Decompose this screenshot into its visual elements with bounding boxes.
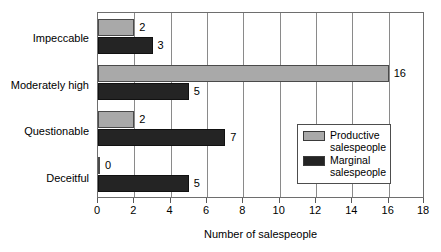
- x-axis-tick-labels: 0 2 4 6 8 10 12 14 16 18: [97, 204, 424, 220]
- bar-deceitful-marginal[interactable]: [98, 175, 189, 192]
- legend-label-marginal-line2: salespeople: [330, 166, 386, 178]
- x-tick-label-6: 6: [203, 204, 209, 216]
- bar-group-impeccable: 2 3: [98, 16, 423, 56]
- marginal-swatch-icon: [303, 156, 325, 166]
- x-axis-title: Number of salespeople: [97, 228, 424, 240]
- bar-chart: Impeccable Moderately high Questionable …: [0, 0, 441, 252]
- bar-questionable-marginal[interactable]: [98, 129, 225, 146]
- legend-label-productive-line2: salespeople: [330, 141, 386, 153]
- bar-row-moderately-high-productive: 16: [98, 65, 423, 82]
- bar-value-impeccable-productive: 2: [139, 22, 145, 33]
- chart-legend: Productive salespeople Marginal salespeo…: [297, 124, 391, 184]
- bar-row-impeccable-productive: 2: [98, 19, 423, 36]
- y-axis-label-questionable: Questionable: [24, 125, 89, 137]
- productive-swatch-icon: [303, 131, 325, 141]
- legend-label-productive: Productive salespeople: [330, 129, 386, 153]
- x-tick-2: [133, 198, 134, 203]
- plot-area: 2 3 16 5: [97, 12, 424, 198]
- x-tick-14: [351, 198, 352, 203]
- bar-moderately-high-productive[interactable]: [98, 65, 389, 82]
- bar-questionable-productive[interactable]: [98, 111, 134, 128]
- bar-value-deceitful-productive: 0: [105, 160, 111, 171]
- legend-entry-marginal: Marginal salespeople: [303, 154, 385, 178]
- x-tick-10: [279, 198, 280, 203]
- x-tick-16: [388, 198, 389, 203]
- bar-impeccable-marginal[interactable]: [98, 37, 153, 54]
- bar-row-moderately-high-marginal: 5: [98, 83, 423, 100]
- x-tick-12: [315, 198, 316, 203]
- x-tick-label-0: 0: [94, 204, 100, 216]
- y-axis-label-deceitful: Deceitful: [46, 172, 89, 184]
- x-tick-label-4: 4: [167, 204, 173, 216]
- x-tick-4: [170, 198, 171, 203]
- x-tick-label-2: 2: [130, 204, 136, 216]
- x-tick-label-12: 12: [309, 204, 321, 216]
- bar-value-moderately-high-marginal: 5: [194, 86, 200, 97]
- y-axis-category-labels: Impeccable Moderately high Questionable …: [0, 12, 93, 198]
- x-tick-label-8: 8: [239, 204, 245, 216]
- bar-moderately-high-marginal[interactable]: [98, 83, 189, 100]
- x-tick-0: [97, 198, 98, 203]
- legend-label-marginal-line1: Marginal: [330, 154, 370, 166]
- bar-value-moderately-high-productive: 16: [394, 68, 406, 79]
- x-tick-label-16: 16: [382, 204, 394, 216]
- x-tick-6: [206, 198, 207, 203]
- bar-value-questionable-productive: 2: [139, 114, 145, 125]
- x-tick-label-14: 14: [345, 204, 357, 216]
- x-tick-18: [423, 198, 424, 203]
- legend-label-productive-line1: Productive: [330, 129, 380, 141]
- bar-value-questionable-marginal: 7: [230, 132, 236, 143]
- bar-deceitful-productive[interactable]: [98, 157, 100, 174]
- legend-entry-productive: Productive salespeople: [303, 129, 385, 153]
- y-axis-label-impeccable: Impeccable: [33, 32, 89, 44]
- bar-value-deceitful-marginal: 5: [194, 178, 200, 189]
- x-tick-label-18: 18: [417, 204, 429, 216]
- x-tick-8: [242, 198, 243, 203]
- bar-row-impeccable-marginal: 3: [98, 37, 423, 54]
- x-tick-label-10: 10: [273, 204, 285, 216]
- y-axis-label-moderately-high: Moderately high: [11, 79, 89, 91]
- bar-impeccable-productive[interactable]: [98, 19, 134, 36]
- bar-value-impeccable-marginal: 3: [158, 40, 164, 51]
- legend-label-marginal: Marginal salespeople: [330, 154, 386, 178]
- bar-group-moderately-high: 16 5: [98, 62, 423, 102]
